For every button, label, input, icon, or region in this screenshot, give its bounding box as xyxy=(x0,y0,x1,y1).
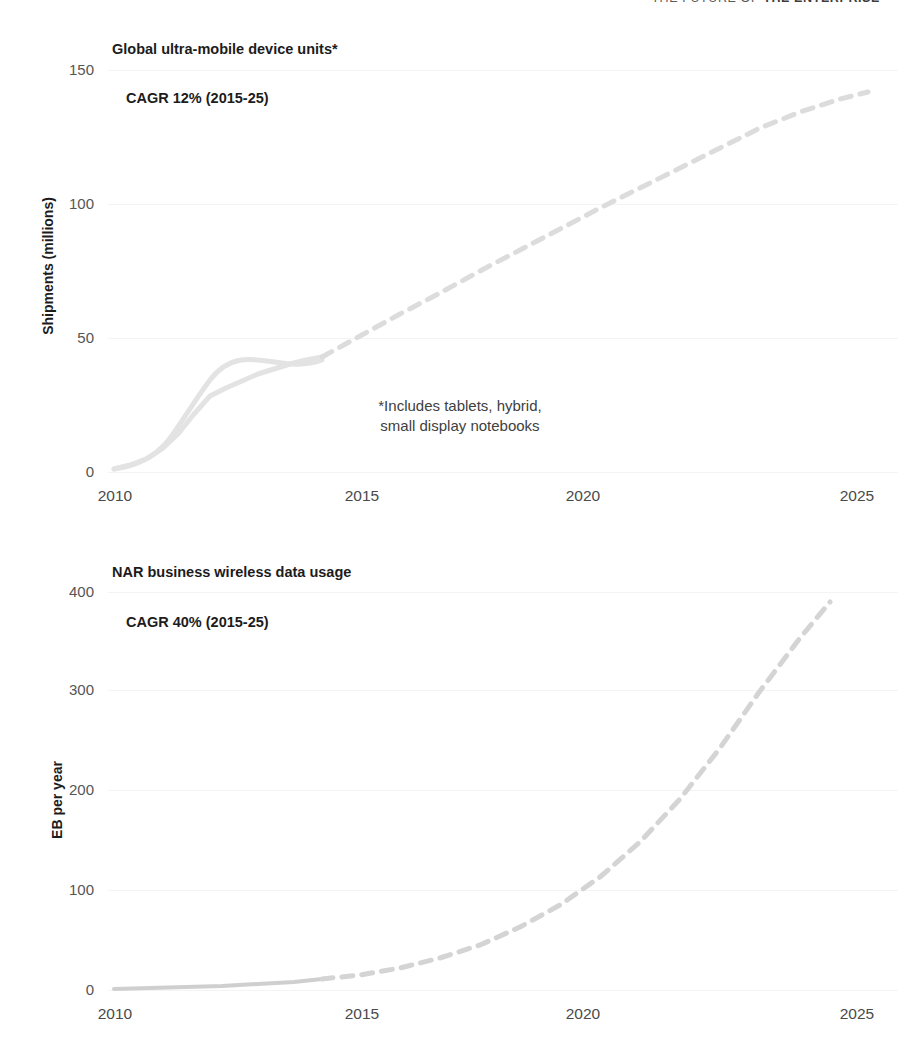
chart-nar-wireless-data-usage: NAR business wireless data usage CAGR 40… xyxy=(0,520,908,1054)
chart-ultra-mobile-device-units: Global ultra-mobile device units* CAGR 1… xyxy=(0,0,908,520)
chart-2-plot xyxy=(0,520,908,1054)
chart-1-xtick-2020: 2020 xyxy=(548,487,618,505)
chart-2-xtick-2015: 2015 xyxy=(327,1005,397,1023)
chart-1-series-forecast xyxy=(322,92,868,357)
chart-1-xtick-2015: 2015 xyxy=(327,487,397,505)
chart-1-footnote: *Includes tablets, hybrid, small display… xyxy=(300,396,620,437)
chart-1-xtick-2010: 2010 xyxy=(80,487,150,505)
chart-2-series-forecast xyxy=(322,602,830,979)
chart-1-series-actual xyxy=(114,359,322,469)
chart-1-xtick-2025: 2025 xyxy=(822,487,892,505)
chart-1-plot xyxy=(0,0,908,520)
chart-2-xtick-2010: 2010 xyxy=(80,1005,150,1023)
chart-2-series-actual xyxy=(114,979,322,989)
chart-2-xtick-2025: 2025 xyxy=(822,1005,892,1023)
chart-2-xtick-2020: 2020 xyxy=(548,1005,618,1023)
